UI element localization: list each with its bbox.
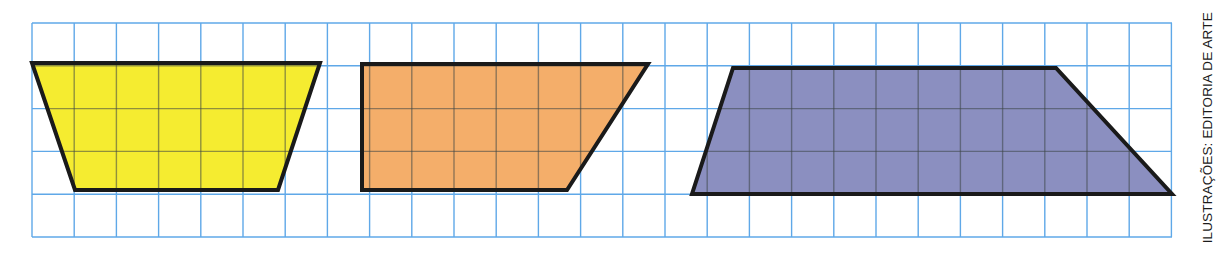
yellow-trapezoid-fill [32, 63, 320, 190]
illustration-credit-text: ILUSTRAÇÕES: EDITORIA DE ARTE [1201, 12, 1215, 243]
figure-canvas [0, 0, 1223, 256]
illustration-credit: ILUSTRAÇÕES: EDITORIA DE ARTE [1195, 0, 1221, 256]
figure-root: ILUSTRAÇÕES: EDITORIA DE ARTE [0, 0, 1223, 256]
